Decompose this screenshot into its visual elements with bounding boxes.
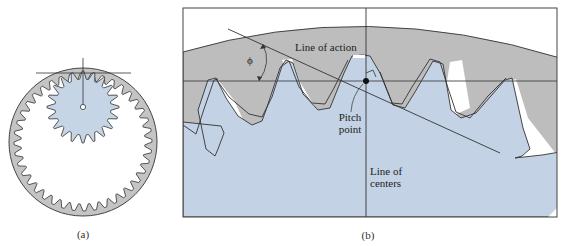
panel-b: Line of action ϕ Pitch point Line of cen… <box>183 8 560 242</box>
caption-a: (a) <box>77 228 90 241</box>
tooth-tip-clearance <box>353 55 365 58</box>
line-of-centers-label-1: Line of <box>370 165 402 177</box>
panel-a: (a) <box>9 58 157 241</box>
line-of-centers-label-2: centers <box>370 177 401 189</box>
pitch-point-label-2: point <box>339 123 362 135</box>
gear-figure: (a) <box>0 0 563 246</box>
caption-b: (b) <box>362 229 375 242</box>
pinion-center-icon <box>80 104 85 109</box>
pressure-angle-label: ϕ <box>247 54 253 66</box>
pitch-point-icon <box>363 78 369 84</box>
pitch-point-label-1: Pitch <box>339 111 362 123</box>
line-of-action-label: Line of action <box>295 41 357 53</box>
